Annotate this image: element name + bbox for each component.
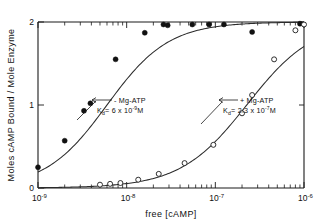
data-point-plus-4 <box>156 171 161 176</box>
kd-label-minus: Kd= 6 x 10-9M <box>97 105 144 116</box>
data-point-minus-8 <box>190 22 195 27</box>
y-axis-title: Moles cAMP Bound / Mole Enzyme <box>6 29 16 182</box>
y-axis-tick-labels: 012 <box>29 17 34 193</box>
x-tick-label-0: 10-9 <box>32 193 47 203</box>
annotation-leader-line-right <box>201 102 222 124</box>
x-tick-label-2: 10-7 <box>209 193 224 203</box>
data-point-plus-3 <box>136 177 141 182</box>
data-point-plus-0 <box>97 182 102 187</box>
data-point-minus-7 <box>165 23 170 28</box>
curve-plus-mg-atp <box>38 46 304 187</box>
x-axis-tick-labels: 10-910-810-710-6 <box>32 193 313 203</box>
kd-equals-plus: = 2.3 x 10 <box>231 106 265 115</box>
data-point-minus-11 <box>250 29 255 34</box>
data-point-minus-4 <box>113 57 118 62</box>
data-point-minus-0 <box>36 165 41 170</box>
data-point-plus-10 <box>293 28 298 33</box>
plot-area: 10-910-810-710-6 012 - Mg-ATP Kd= 6 x 10… <box>0 0 316 224</box>
data-point-plus-11 <box>302 22 307 27</box>
x-tick-label-1: 10-8 <box>121 193 136 203</box>
y-tick-label-1: 1 <box>29 100 34 110</box>
kd-units-plus: M <box>270 106 276 115</box>
annotation-leader-line-left <box>77 101 96 120</box>
binding-curve-figure: 10-910-810-710-6 012 - Mg-ATP Kd= 6 x 10… <box>0 0 316 224</box>
x-axis-title: free [cAMP] <box>145 209 196 219</box>
kd-label-plus: Kd= 2.3 x 10-7M <box>223 105 276 116</box>
data-point-plus-6 <box>211 142 216 147</box>
data-point-minus-1 <box>62 138 67 143</box>
y-tick-label-0: 0 <box>29 183 34 193</box>
x-tick-label-3: 10-6 <box>298 193 313 203</box>
kd-units-minus: M <box>137 106 143 115</box>
data-point-plus-1 <box>108 181 113 186</box>
data-point-minus-10 <box>221 22 226 27</box>
kd-equals-minus: = 6 x 10 <box>105 106 132 115</box>
y-tick-label-2: 2 <box>29 17 34 27</box>
annotation-label-plus: + Mg-ATP <box>240 96 274 105</box>
annotation-plus-mg-atp: + Mg-ATP Kd= 2.3 x 10-7M <box>201 96 276 124</box>
data-point-plus-2 <box>118 181 123 186</box>
data-point-minus-5 <box>142 30 147 35</box>
data-point-minus-9 <box>207 22 212 27</box>
data-point-plus-5 <box>182 161 187 166</box>
data-point-plus-9 <box>272 57 277 62</box>
annotation-arrow-right <box>219 98 238 103</box>
annotation-label-minus: - Mg-ATP <box>114 96 146 105</box>
